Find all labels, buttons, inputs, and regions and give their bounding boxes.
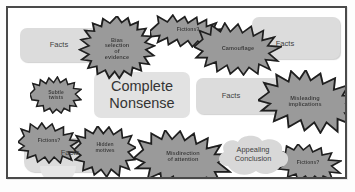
center-complete-nonsense: Complete Nonsense xyxy=(88,70,196,120)
facts-box-middle-right-label: Facts xyxy=(222,92,241,100)
starburst-icon xyxy=(30,76,82,114)
burst-camouflage: Camouflage xyxy=(194,22,282,76)
starburst-icon xyxy=(194,22,282,76)
starburst-icon xyxy=(74,126,136,177)
center-complete-nonsense-label: Complete Nonsense xyxy=(109,78,174,112)
facts-box-top-left-label: Facts xyxy=(50,41,69,49)
burst-fictions-left: Fictions? xyxy=(18,122,80,164)
cloud-shape-icon xyxy=(214,134,292,177)
starburst-icon xyxy=(258,70,345,134)
diagram-canvas: Facts Facts Facts Facts Appe xyxy=(0,0,355,192)
burst-hidden-motives: Hidden motives xyxy=(74,126,136,177)
facts-box-bottom-left-tail xyxy=(40,166,76,177)
starburst-icon xyxy=(18,122,80,164)
burst-subtle-twists: Subtle twists xyxy=(30,76,82,114)
cloud-appealing-conclusion: Appealing Conclusion xyxy=(214,134,292,177)
diagram-frame-inner: Facts Facts Facts Facts Appe xyxy=(8,8,345,177)
diagram-frame: Facts Facts Facts Facts Appe xyxy=(6,6,347,179)
burst-misleading-implications: Misleading implications xyxy=(258,70,345,134)
